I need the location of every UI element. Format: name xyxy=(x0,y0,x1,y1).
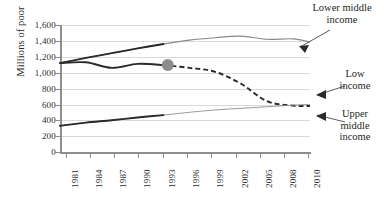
series-line-upper-middle-income xyxy=(60,104,310,125)
arrowhead-upper-middle-income xyxy=(316,112,326,121)
annotation-lower-middle-income: Lower middle income xyxy=(302,2,382,25)
series-line-lower-middle-income xyxy=(60,36,310,63)
arrowhead-low-income xyxy=(316,90,326,99)
series-layer xyxy=(0,0,384,198)
annotation-arrowheads xyxy=(299,45,326,121)
series-line-lower-middle-income-solid xyxy=(60,44,163,63)
annotation-low-income: Low income xyxy=(328,68,382,91)
series-line-low-income-solid xyxy=(60,62,163,68)
chart-container: Millions of poor 1,600 1,400 1,200 1,000… xyxy=(0,0,384,198)
arrowhead-lower-middle-income xyxy=(299,45,309,53)
series-line-low-income-dashed xyxy=(163,65,310,106)
leader-lower-middle-income xyxy=(300,30,330,47)
annotation-upper-middle-income: Upper middle income xyxy=(328,108,382,143)
highlight-dot-marker xyxy=(162,59,174,71)
series-line-upper-middle-income-solid xyxy=(60,115,163,126)
